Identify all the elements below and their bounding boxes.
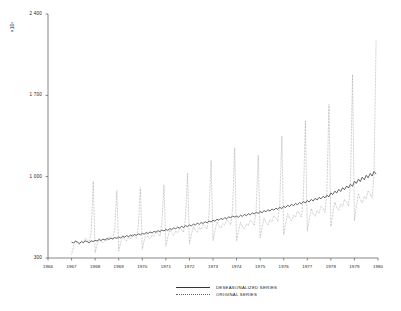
legend-swatch-solid-icon bbox=[176, 287, 210, 289]
series-original-series bbox=[72, 40, 377, 255]
x-tick-label: 1972 bbox=[178, 264, 200, 269]
y-tick-label: 1 000 bbox=[18, 174, 42, 179]
x-tick-label: 1966 bbox=[37, 264, 59, 269]
x-tick-label: 1974 bbox=[226, 264, 248, 269]
chart-axes bbox=[48, 14, 378, 258]
legend-label-original: ORIGINAL SERIES bbox=[216, 292, 257, 297]
y-tick-label: 300 bbox=[18, 255, 42, 260]
x-tick-label: 1975 bbox=[249, 264, 271, 269]
chart-series-group bbox=[72, 40, 377, 255]
y-tick-label: 1 700 bbox=[18, 92, 42, 97]
chart-tick-marks bbox=[46, 14, 379, 261]
legend-label-deseasonalized: DESEASONALIZED SERIES bbox=[216, 285, 277, 290]
chart-legend: DESEASONALIZED SERIES ORIGINAL SERIES bbox=[176, 284, 326, 298]
x-tick-label: 1979 bbox=[343, 264, 365, 269]
x-tick-label: 1973 bbox=[202, 264, 224, 269]
x-tick-label: 1977 bbox=[296, 264, 318, 269]
x-tick-label: 1967 bbox=[61, 264, 83, 269]
legend-swatch-dotted-icon bbox=[176, 294, 210, 296]
x-tick-label: 1968 bbox=[84, 264, 106, 269]
x-tick-label: 1970 bbox=[131, 264, 153, 269]
y-tick-label: 2 400 bbox=[18, 11, 42, 16]
chart-container: ×10⁶ 3001 0001 7002 400 1966196719681969… bbox=[0, 0, 401, 311]
x-tick-label: 1969 bbox=[108, 264, 130, 269]
legend-item-original: ORIGINAL SERIES bbox=[176, 291, 326, 298]
legend-item-deseasonalized: DESEASONALIZED SERIES bbox=[176, 284, 326, 291]
x-tick-label: 1980 bbox=[367, 264, 389, 269]
x-tick-label: 1978 bbox=[320, 264, 342, 269]
x-tick-label: 1976 bbox=[273, 264, 295, 269]
x-tick-label: 1971 bbox=[155, 264, 177, 269]
